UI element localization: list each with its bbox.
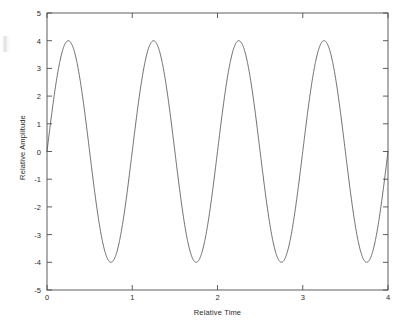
x-axis-ticks-bottom bbox=[47, 285, 388, 290]
y-tick-label-neg3: -3 bbox=[19, 231, 41, 240]
x-tick-label-2: 2 bbox=[206, 293, 230, 302]
scan-artifact bbox=[2, 36, 11, 52]
figure-canvas: 5 4 3 2 1 0 -1 -2 -3 -4 -5 0 1 2 3 4 Rel… bbox=[0, 0, 406, 329]
y-tick-label-4: 4 bbox=[19, 37, 41, 46]
x-axis-title: Relative Time bbox=[47, 308, 388, 317]
y-tick-label-neg4: -4 bbox=[19, 258, 41, 267]
sine-curve bbox=[47, 41, 388, 263]
y-tick-label-3: 3 bbox=[19, 64, 41, 73]
y-tick-label-5: 5 bbox=[19, 9, 41, 18]
y-axis-title: Relative Amplitude bbox=[18, 83, 27, 213]
x-tick-label-1: 1 bbox=[120, 293, 144, 302]
x-tick-label-3: 3 bbox=[291, 293, 315, 302]
y-axis-ticks-right bbox=[383, 13, 388, 290]
x-axis-ticks-top bbox=[47, 13, 388, 18]
y-axis-ticks-left bbox=[47, 13, 52, 290]
x-tick-label-4: 4 bbox=[376, 293, 400, 302]
x-tick-label-0: 0 bbox=[35, 293, 59, 302]
plot-svg bbox=[0, 0, 406, 329]
